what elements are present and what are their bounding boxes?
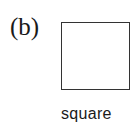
shape-caption: square <box>61 106 112 122</box>
square-shape <box>61 22 130 90</box>
panel-label: (b) <box>10 14 39 39</box>
